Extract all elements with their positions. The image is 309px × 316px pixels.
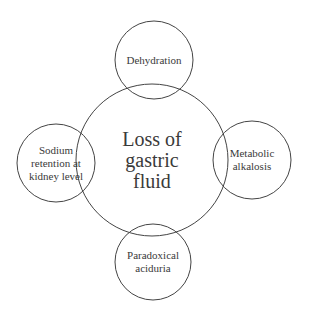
bottom-label: Paradoxical aciduria [116, 247, 190, 277]
diagram-canvas: Loss of gastric fluid Dehydration Sodium… [0, 0, 309, 316]
right-label: Metabolic alkalosis [216, 145, 288, 175]
top-label: Dehydration [120, 45, 188, 75]
center-label: Loss of gastric fluid [92, 120, 212, 200]
left-label: Sodium retention at kidney level [18, 141, 94, 185]
